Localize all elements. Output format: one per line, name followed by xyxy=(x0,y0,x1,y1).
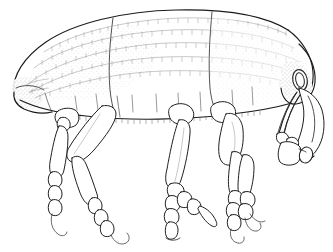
body-group xyxy=(8,9,324,244)
middle-tarsus-far-tip xyxy=(198,206,217,227)
middle-tarsus-far xyxy=(177,191,217,226)
hind-tarsus-near xyxy=(48,171,67,235)
rostrum-shape xyxy=(297,88,324,157)
front-claw-near xyxy=(230,229,244,243)
illustration-canvas: Weevil, lateral view xyxy=(0,0,333,252)
front-leg xyxy=(211,102,265,244)
weevil-lateral-drawing xyxy=(0,0,333,252)
middle-femur xyxy=(166,120,190,189)
hind-claw-near xyxy=(51,214,67,236)
hind-tibia xyxy=(50,126,68,178)
antenna-pedicel-bar xyxy=(278,142,301,166)
hind-leg xyxy=(48,105,129,244)
hind-claw-far xyxy=(111,233,129,244)
front-tarsus-far xyxy=(238,191,265,231)
hind-tarsus-far xyxy=(88,197,129,244)
middle-leg xyxy=(164,104,217,241)
